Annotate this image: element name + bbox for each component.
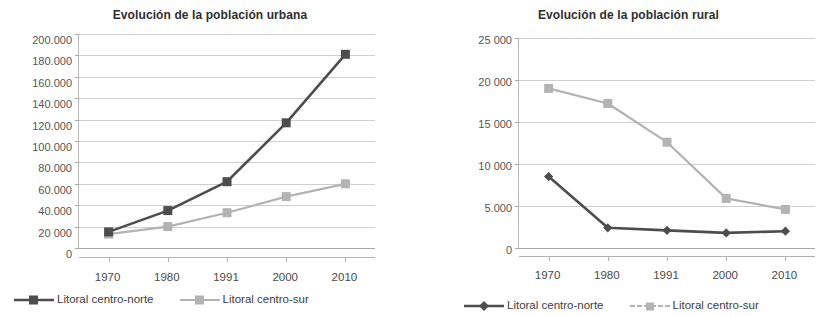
y-tick-label: 200.000 bbox=[32, 35, 72, 46]
legend-entry-sur-rural[interactable]: Litoral centro-sur bbox=[630, 300, 759, 312]
legend-entry-sur-urban[interactable]: Litoral centro-sur bbox=[180, 294, 309, 306]
y-tick-label: 10 000 bbox=[478, 161, 512, 172]
y-axis-labels-rural: 25 00020 00015 00010 0005.0000 bbox=[450, 38, 512, 256]
chart-panel-urban: Evolución de la población urbana 200.000… bbox=[0, 0, 420, 316]
chart-panel-rural: Evolución de la población rural 25 00020… bbox=[420, 0, 837, 316]
y-tick-label: 60.000 bbox=[38, 184, 72, 195]
data-point-marker bbox=[662, 226, 671, 235]
legend-swatch-norte-rural bbox=[464, 300, 504, 312]
data-point-marker bbox=[104, 227, 113, 236]
x-tick-mark bbox=[785, 256, 786, 261]
x-tick-mark bbox=[227, 257, 228, 262]
legend-label-norte-urban: Litoral centro-norte bbox=[57, 294, 154, 306]
x-tick-label: 2010 bbox=[332, 272, 358, 284]
y-tick-label: 25 000 bbox=[478, 35, 512, 46]
y-tick-label: 40.000 bbox=[38, 206, 72, 217]
x-tick-label: 2000 bbox=[272, 272, 298, 284]
data-point-marker bbox=[223, 208, 232, 217]
series-layer-rural bbox=[519, 38, 815, 248]
data-point-marker bbox=[722, 194, 731, 203]
series-line bbox=[549, 88, 786, 209]
data-point-marker bbox=[781, 205, 790, 214]
data-point-marker bbox=[223, 177, 232, 186]
y-axis-labels-urban: 200.000180.000160.000140.000120.000100.0… bbox=[0, 34, 72, 256]
y-tick-label: 0 bbox=[506, 245, 512, 256]
x-tick-label: 1991 bbox=[653, 270, 679, 282]
legend-entry-norte-rural[interactable]: Litoral centro-norte bbox=[464, 300, 604, 312]
y-tick-label: 5.000 bbox=[484, 203, 512, 214]
y-tick-mark bbox=[515, 248, 519, 249]
x-tick-mark bbox=[667, 256, 668, 261]
data-point-marker bbox=[722, 228, 731, 237]
legend-urban: Litoral centro-norte Litoral centro-sur bbox=[14, 294, 309, 306]
plot-area-rural bbox=[518, 38, 815, 248]
x-tick-label: 1980 bbox=[594, 270, 620, 282]
data-point-marker bbox=[282, 118, 291, 127]
x-tick-mark bbox=[345, 257, 346, 262]
plot-wrapper-rural: 25 00020 00015 00010 0005.0000 197019801… bbox=[450, 38, 820, 256]
y-tick-label: 20 000 bbox=[38, 227, 72, 238]
series-sur bbox=[544, 84, 790, 214]
x-tick-mark bbox=[549, 256, 550, 261]
data-point-marker bbox=[544, 84, 553, 93]
y-tick-label: 80.000 bbox=[38, 163, 72, 174]
x-tick-label: 1991 bbox=[213, 272, 239, 284]
legend-entry-norte-urban[interactable]: Litoral centro-norte bbox=[14, 294, 154, 306]
x-tick-label: 1970 bbox=[95, 272, 121, 284]
y-tick-label: 160.000 bbox=[32, 77, 72, 88]
data-point-marker bbox=[282, 192, 291, 201]
data-point-marker bbox=[341, 179, 350, 188]
x-tick-label: 2000 bbox=[712, 270, 738, 282]
legend-label-sur-urban: Litoral centro-sur bbox=[223, 294, 309, 306]
y-tick-mark bbox=[75, 248, 79, 249]
plot-area-urban bbox=[78, 34, 375, 248]
x-tick-mark bbox=[168, 257, 169, 262]
legend-label-norte-rural: Litoral centro-norte bbox=[507, 300, 604, 312]
data-point-marker bbox=[603, 99, 612, 108]
legend-label-sur-rural: Litoral centro-sur bbox=[673, 300, 759, 312]
data-point-marker bbox=[663, 138, 672, 147]
data-point-marker bbox=[163, 222, 172, 231]
x-tick-label: 2010 bbox=[772, 270, 798, 282]
x-tick-mark bbox=[608, 256, 609, 261]
plot-wrapper-urban: 200.000180.000160.000140.000120.000100.0… bbox=[0, 34, 380, 256]
y-tick-label: 140.000 bbox=[32, 99, 72, 110]
chart-title-rural: Evolución de la población rural bbox=[420, 8, 837, 22]
y-tick-label: 20 000 bbox=[478, 77, 512, 88]
x-tick-label: 1970 bbox=[535, 270, 561, 282]
chart-title-urban: Evolución de la población urbana bbox=[0, 8, 420, 22]
series-line bbox=[109, 54, 346, 232]
series-sur bbox=[104, 179, 350, 238]
gridline bbox=[519, 248, 815, 249]
x-tick-label: 1980 bbox=[154, 272, 180, 284]
legend-swatch-sur-rural bbox=[630, 300, 670, 312]
data-point-marker bbox=[163, 206, 172, 215]
x-tick-mark bbox=[286, 257, 287, 262]
y-tick-label: 0 bbox=[66, 249, 72, 260]
series-layer-urban bbox=[79, 34, 375, 248]
legend-swatch-norte-urban bbox=[14, 294, 54, 306]
x-tick-mark bbox=[726, 256, 727, 261]
legend-swatch-sur-urban bbox=[180, 294, 220, 306]
y-tick-label: 15 000 bbox=[478, 119, 512, 130]
two-chart-figure: Evolución de la población urbana 200.000… bbox=[0, 0, 837, 316]
x-tick-mark bbox=[109, 257, 110, 262]
data-point-marker bbox=[341, 50, 350, 59]
data-point-marker bbox=[781, 227, 790, 236]
y-tick-label: 180.000 bbox=[32, 56, 72, 67]
y-tick-label: 120.000 bbox=[32, 120, 72, 131]
y-tick-label: 100.000 bbox=[32, 142, 72, 153]
legend-rural: Litoral centro-norte Litoral centro-sur bbox=[464, 300, 759, 312]
series-line bbox=[549, 177, 786, 233]
gridline bbox=[79, 248, 375, 249]
series-norte bbox=[544, 172, 790, 237]
